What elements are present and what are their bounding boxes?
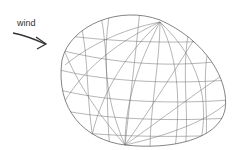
wireframe-egg-shape (0, 0, 237, 150)
diagram-canvas: wind (0, 0, 237, 150)
